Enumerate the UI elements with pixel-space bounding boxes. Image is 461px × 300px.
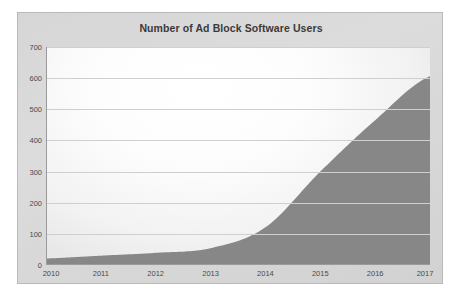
gridline — [46, 109, 430, 110]
y-axis-tick-label: 0 — [38, 261, 42, 270]
x-axis-tick-label: 2013 — [202, 269, 219, 278]
y-axis-line — [46, 47, 47, 265]
gridline — [46, 78, 430, 79]
chart-figure: Number of Ad Block Software Users 010020… — [0, 0, 461, 300]
x-axis-line — [46, 264, 430, 265]
y-axis-tick-label: 600 — [29, 74, 42, 83]
y-axis-tick-label: 500 — [29, 105, 42, 114]
y-axis-tick-label: 700 — [29, 43, 42, 52]
x-axis-tick-label: 2011 — [93, 269, 109, 278]
plot-area: 0100200300400500600700 20102011201220132… — [46, 47, 430, 265]
gridline — [46, 140, 430, 141]
x-axis-tick-label: 2010 — [43, 269, 60, 278]
chart-frame: Number of Ad Block Software Users 010020… — [17, 12, 443, 284]
area-series-ad-block-users — [46, 47, 430, 265]
gridline — [46, 234, 430, 235]
y-axis-tick-label: 400 — [29, 136, 42, 145]
y-axis-tick-label: 300 — [29, 167, 42, 176]
gridline — [46, 203, 430, 204]
x-axis-tick-label: 2017 — [417, 269, 434, 278]
x-axis-tick-label: 2015 — [312, 269, 329, 278]
x-axis-tick-label: 2012 — [147, 269, 164, 278]
gridline — [46, 47, 430, 48]
chart-title: Number of Ad Block Software Users — [18, 22, 444, 34]
y-axis-tick-label: 100 — [29, 229, 42, 238]
x-axis-tick-label: 2016 — [367, 269, 384, 278]
x-axis-tick-label: 2014 — [257, 269, 274, 278]
y-axis-tick-label: 200 — [29, 198, 42, 207]
gridline — [46, 172, 430, 173]
